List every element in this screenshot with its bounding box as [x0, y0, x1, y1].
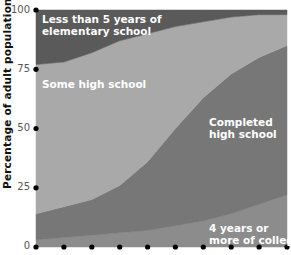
- x-tick-dot-3: [117, 244, 122, 249]
- label-completed-line1: Completed: [209, 116, 277, 128]
- y-tick-75: 75: [6, 63, 30, 74]
- label-elementary-line1: Less than 5 years of: [42, 13, 162, 25]
- label-some-high-school: Some high school: [42, 78, 146, 90]
- y-tick-100: 100: [6, 4, 30, 15]
- x-tick-dot-4: [145, 244, 150, 249]
- x-tick-dot-0: [33, 244, 38, 249]
- x-tick-dot-5: [173, 244, 178, 249]
- label-completed-high-school: Completed high school: [209, 116, 277, 140]
- y-tick-50: 50: [6, 122, 30, 133]
- x-tick-dot-6: [201, 244, 206, 249]
- y-tick-25: 25: [6, 181, 30, 192]
- y-tick-dot-100: [33, 7, 38, 12]
- label-elementary-line2: elementary school: [42, 25, 162, 37]
- y-tick-dot-50: [33, 126, 38, 131]
- x-tick-dot-1: [61, 244, 66, 249]
- label-college-line2: more of college: [209, 234, 291, 246]
- y-tick-dot-75: [33, 67, 38, 72]
- x-tick-dot-2: [89, 244, 94, 249]
- label-college-line1: 4 years or: [209, 222, 291, 234]
- label-completed-line2: high school: [209, 128, 277, 140]
- label-elementary: Less than 5 years of elementary school: [42, 13, 162, 37]
- y-tick-dot-25: [33, 185, 38, 190]
- label-college: 4 years or more of college: [209, 222, 291, 246]
- y-tick-0: 0: [6, 240, 30, 251]
